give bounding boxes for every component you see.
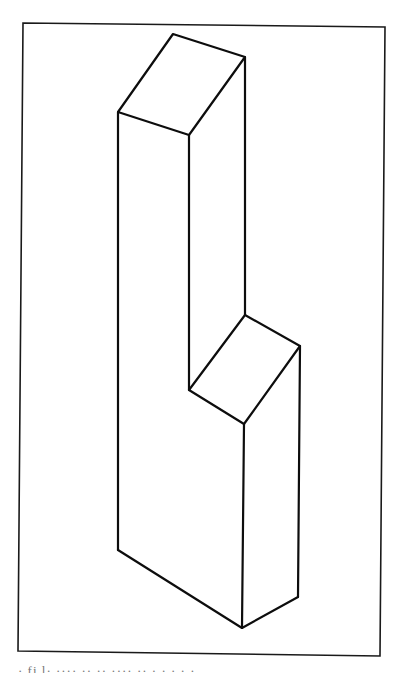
isometric-figure: [0, 0, 401, 673]
left-face: [118, 112, 244, 628]
lower-right-edge: [298, 346, 300, 597]
figure-caption: · fi l· ···· ·· ·· ···· ·· · · · · ·: [18, 664, 383, 673]
